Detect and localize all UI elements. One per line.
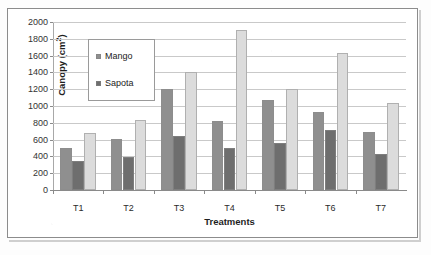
y-tick-label: 400 [33, 151, 48, 161]
bar [72, 161, 84, 190]
x-tick-label: T5 [275, 203, 286, 213]
legend-swatch-icon [96, 81, 101, 86]
x-tick-mark [53, 190, 54, 194]
y-tick-label: 0 [43, 185, 48, 195]
bar [84, 133, 96, 190]
y-tick-label: 1200 [28, 84, 48, 94]
x-tick-mark [154, 190, 155, 194]
chart-frame: Canopy (cm2) 020040060080010001200140016… [7, 8, 418, 238]
bar [60, 148, 72, 190]
x-tick-label: T3 [174, 203, 185, 213]
x-tick-mark [356, 190, 357, 194]
x-axis-title: Treatments [53, 216, 406, 227]
x-tick-label: T1 [73, 203, 84, 213]
legend-label: Sapota [105, 78, 134, 88]
bar [274, 143, 286, 190]
y-tick-label: 2000 [28, 17, 48, 27]
bar [111, 139, 123, 190]
bar [387, 103, 399, 190]
chart-legend: MangoSapota [88, 39, 155, 101]
y-tick-label: 1000 [28, 101, 48, 111]
bar [173, 136, 185, 190]
y-tick-label: 800 [33, 118, 48, 128]
x-tick-mark [305, 190, 306, 194]
bar-group: T5 [255, 22, 305, 190]
figure-shadow-bottom [9, 240, 421, 242]
bar-group: T4 [204, 22, 254, 190]
bar [161, 89, 173, 190]
bar [123, 157, 135, 190]
figure-shadow-right [419, 10, 421, 241]
bar-group: T6 [305, 22, 355, 190]
y-tick-label: 200 [33, 168, 48, 178]
x-axis-line [53, 190, 407, 191]
x-tick-label: T7 [376, 203, 387, 213]
x-tick-label: T6 [325, 203, 336, 213]
y-tick-label: 1600 [28, 51, 48, 61]
legend-swatch-icon [96, 54, 101, 59]
bar [185, 72, 197, 190]
bar-group: T7 [356, 22, 406, 190]
legend-item: Sapota [96, 78, 134, 88]
legend-label: Mango [105, 51, 133, 61]
bar-group: T3 [154, 22, 204, 190]
x-tick-label: T4 [224, 203, 235, 213]
bar [286, 89, 298, 190]
bar [262, 100, 274, 190]
x-tick-label: T2 [123, 203, 134, 213]
x-tick-mark [255, 190, 256, 194]
bar [224, 148, 236, 190]
y-tick-label: 1800 [28, 34, 48, 44]
bar [337, 53, 349, 190]
chart-figure: Canopy (cm2) 020040060080010001200140016… [0, 0, 431, 255]
bar [313, 112, 325, 190]
y-tick-label: 600 [33, 135, 48, 145]
x-tick-mark [103, 190, 104, 194]
x-tick-mark [204, 190, 205, 194]
bar [363, 132, 375, 190]
bar [212, 121, 224, 190]
bar [375, 154, 387, 190]
bar [135, 120, 147, 190]
bar [325, 130, 337, 190]
y-tick-label: 1400 [28, 67, 48, 77]
legend-item: Mango [96, 51, 133, 61]
bar [236, 30, 248, 190]
